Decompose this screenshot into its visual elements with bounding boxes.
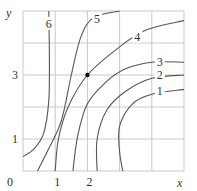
- contour-level-2: [96, 75, 184, 171]
- contour-label-4: 4: [134, 30, 140, 44]
- x-tick-label: 0: [7, 175, 13, 189]
- contour-label-2: 2: [157, 68, 163, 82]
- x-axis-label: x: [176, 176, 183, 190]
- contour-level-6: [23, 11, 49, 157]
- x-tick-label: 2: [86, 175, 92, 189]
- contour-level-5: [38, 11, 120, 171]
- x-tick-label: 1: [54, 175, 60, 189]
- contour-label-1: 1: [157, 84, 163, 98]
- y-tick-labels: 13: [12, 68, 18, 146]
- y-tick-label: 1: [12, 132, 18, 146]
- contour-label-5: 5: [94, 12, 100, 26]
- y-tick-label: 3: [12, 68, 18, 82]
- contour-level-3: [73, 62, 184, 171]
- contour-plot: 123456 y x 012 13: [0, 0, 197, 191]
- contour-labels: 123456: [44, 12, 165, 98]
- contour-level-1: [119, 89, 184, 171]
- marked-point: [85, 73, 89, 77]
- contour-label-3: 3: [157, 55, 163, 69]
- contour-label-6: 6: [46, 17, 52, 31]
- y-axis-label: y: [5, 6, 12, 20]
- x-tick-labels: 012: [7, 175, 92, 189]
